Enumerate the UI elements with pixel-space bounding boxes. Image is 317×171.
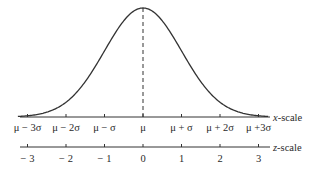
z-scale-tick-label: 3: [256, 153, 261, 164]
z-scale-tick-label: 0: [140, 153, 145, 164]
x-scale-tick-label: μ +3σ: [246, 122, 271, 133]
z-scale-tick-label: − 3: [21, 153, 35, 164]
x-scale-label: x-scale: [272, 112, 302, 123]
x-scale-tick-label: μ + 2σ: [206, 122, 234, 133]
z-scale-tick-label: 2: [217, 153, 222, 164]
x-scale-tick-label: μ − 3σ: [14, 122, 42, 133]
x-scale-tick-label: μ − σ: [93, 122, 116, 133]
z-scale-tick-label: 1: [179, 153, 184, 164]
z-scale-tick-label: − 2: [59, 153, 73, 164]
z-scale-label: z-scale: [272, 142, 302, 153]
x-scale-tick-label: μ + σ: [170, 122, 193, 133]
x-scale-tick-label: μ − 2σ: [52, 122, 80, 133]
z-scale-tick-label: − 1: [98, 153, 112, 164]
normal-curve-diagram: μ − 3σμ − 2σμ − σμμ + σμ + 2σμ +3σ x-sca…: [0, 0, 317, 171]
x-scale-tick-label: μ: [140, 122, 146, 133]
